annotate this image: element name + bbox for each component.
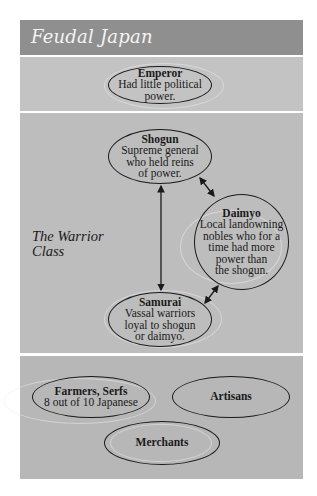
shogun-desc-line-1: Supreme general bbox=[121, 145, 199, 157]
artisans-title: Artisans bbox=[210, 391, 252, 403]
warrior-class-label: The Warrior Class bbox=[32, 229, 132, 258]
merchants-node: Merchants bbox=[104, 421, 220, 465]
daimyo-node: Daimyo Local landowning nobles who for a… bbox=[194, 194, 289, 290]
artisans-node: Artisans bbox=[172, 376, 290, 418]
warrior-class-label-line-1: The Warrior bbox=[32, 229, 132, 244]
diagram-title: Feudal Japan bbox=[31, 26, 153, 47]
samurai-desc-line-3: or daimyo. bbox=[135, 331, 185, 343]
shogun-node: Shogun Supreme general who held reins of… bbox=[108, 129, 212, 184]
shogun-desc-line-3: of power. bbox=[138, 168, 181, 180]
emperor-desc-line-2: power. bbox=[145, 91, 176, 103]
samurai-desc-line-1: Vassal warriors bbox=[125, 308, 196, 320]
daimyo-desc-line-3: time had more bbox=[208, 242, 274, 254]
farmers-serfs-desc: 8 out of 10 Japanese bbox=[44, 397, 138, 409]
daimyo-desc-line-5: the shogun. bbox=[215, 265, 268, 277]
emperor-node: Emperor Had little political power. bbox=[108, 66, 212, 104]
daimyo-desc-line-1: Local landowning bbox=[200, 219, 283, 231]
diagram-header: Feudal Japan bbox=[20, 20, 303, 55]
merchants-title: Merchants bbox=[136, 437, 189, 449]
farmers-serfs-node: Farmers, Serfs 8 out of 10 Japanese bbox=[32, 376, 150, 418]
samurai-node: Samurai Vassal warriors loyal to shogun … bbox=[108, 292, 212, 347]
warrior-class-label-line-2: Class bbox=[32, 244, 132, 259]
